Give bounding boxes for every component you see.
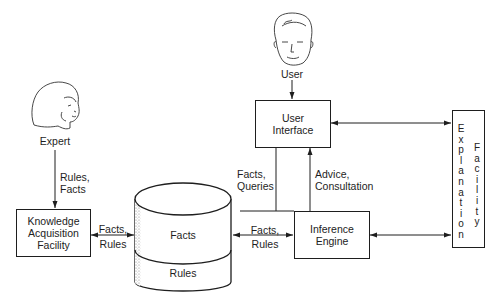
vertical-letter: E — [458, 124, 465, 135]
diagram-canvas — [0, 0, 497, 307]
expert-face-icon — [32, 82, 79, 129]
vertical-letter: n — [458, 230, 464, 241]
edge-label-kaf-kb-top: Facts, — [96, 223, 130, 235]
vertical-letter: y — [475, 217, 480, 228]
inference-engine-box: Inference Engine — [294, 211, 370, 259]
kb-facts-label: Facts — [163, 229, 203, 241]
user-label: User — [276, 68, 308, 80]
user-interface-box: User Interface — [255, 100, 331, 148]
vertical-letter: i — [476, 196, 478, 207]
vertical-letter: F — [474, 143, 480, 154]
facility-vertical-text: Facility — [472, 143, 482, 228]
explanation-vertical-text: Explanation — [456, 124, 466, 241]
user-face-icon — [274, 13, 313, 65]
kb-rules-label: Rules — [163, 267, 203, 279]
edge-label-advice-consultation: Advice, Consultation — [315, 168, 373, 192]
edge-label-kaf-kb-bottom: Rules — [96, 238, 130, 250]
expert-label: Expert — [38, 135, 72, 147]
edge-label-facts-queries: Facts, Queries — [237, 168, 274, 192]
edge-label-kb-ie-bottom: Rules — [247, 238, 283, 250]
knowledge-acquisition-facility-box: Knowledge Acquisition Facility — [16, 209, 91, 257]
vertical-letter: n — [458, 177, 464, 188]
edge-label-rules-facts: Rules, Facts — [60, 171, 90, 195]
edge-label-kb-ie-top: Facts, — [247, 224, 283, 236]
